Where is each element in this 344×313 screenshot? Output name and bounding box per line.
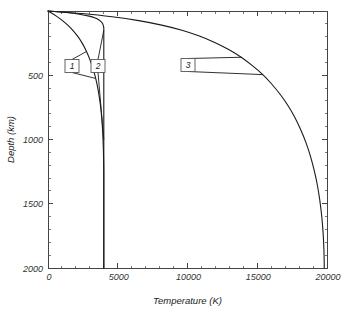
temperature-depth-chart: 05000100001500020000500100015002000Tempe… <box>0 0 344 313</box>
x-axis-tick-label: 5000 <box>109 272 129 282</box>
y-axis-tick-label: 500 <box>28 71 43 81</box>
curve-2 <box>48 11 104 268</box>
annotation-leader-up-3 <box>188 57 241 58</box>
x-axis-tick-label: 0 <box>46 272 51 282</box>
x-axis-tick-label: 20000 <box>314 272 340 282</box>
annotation-label-3: 3 <box>186 60 191 70</box>
y-axis-tick-label: 2000 <box>22 264 43 274</box>
annotation-leader-down-1 <box>72 73 96 79</box>
chart-figure: 05000100001500020000500100015002000Tempe… <box>0 0 344 313</box>
y-axis-tick-label: 1000 <box>23 135 43 145</box>
x-axis-tick-label: 15000 <box>246 272 271 282</box>
y-axis-title: Depth (km) <box>5 116 16 163</box>
annotation-leader-down-2 <box>98 73 104 140</box>
x-axis-title: Temperature (K) <box>153 295 222 306</box>
annotation-leader-up-1 <box>72 51 87 59</box>
y-axis-tick-label: 1500 <box>23 199 43 209</box>
curve-1 <box>48 11 104 268</box>
x-axis-tick-label: 10000 <box>176 272 201 282</box>
annotation-leader-up-2 <box>98 30 104 59</box>
annotation-label-2: 2 <box>95 61 101 71</box>
curve-3 <box>48 11 324 268</box>
annotation-leader-down-3 <box>188 72 263 75</box>
annotation-label-1: 1 <box>70 61 75 71</box>
plot-frame <box>48 11 327 268</box>
